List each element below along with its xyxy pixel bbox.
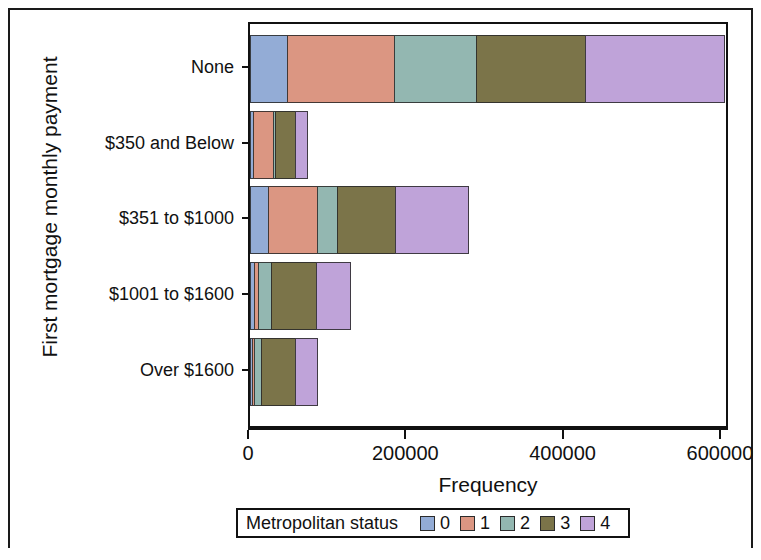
bar-segment — [395, 186, 468, 254]
y-axis-tick-label: $350 and Below — [4, 134, 234, 152]
stacked-bar-chart: First mortgage monthly payment None$350 … — [0, 0, 761, 560]
bar-segment — [317, 186, 338, 254]
chart-legend: Metropolitan status 01234 — [236, 508, 630, 538]
plot-area — [248, 22, 728, 428]
legend-label: 4 — [600, 513, 610, 534]
stacked-bar — [250, 111, 308, 179]
bar-segment — [250, 35, 288, 103]
bar-segment — [295, 338, 318, 406]
legend-item: 3 — [540, 513, 570, 534]
x-axis-tick — [562, 430, 564, 439]
legend-label: 3 — [560, 513, 570, 534]
legend-swatch — [500, 516, 515, 531]
y-axis-tick-label: Over $1600 — [4, 361, 234, 379]
legend-label: 2 — [520, 513, 530, 534]
bar-segment — [476, 35, 586, 103]
stacked-bar — [250, 262, 351, 330]
bar-segment — [253, 111, 274, 179]
y-axis-tick-label: None — [4, 58, 234, 76]
legend-item: 4 — [580, 513, 610, 534]
x-axis-tick — [719, 430, 721, 439]
bar-segment — [275, 111, 295, 179]
x-axis-line — [248, 428, 728, 430]
bar-segment — [271, 262, 317, 330]
scan-edge — [0, 548, 761, 560]
legend-title: Metropolitan status — [246, 513, 398, 534]
chart-page: First mortgage monthly payment None$350 … — [0, 0, 761, 560]
x-axis-tick — [404, 430, 406, 439]
legend-item: 2 — [500, 513, 530, 534]
x-axis-tick-label: 0 — [242, 442, 253, 465]
legend-swatch — [540, 516, 555, 531]
x-axis-tick-label: 200000 — [372, 442, 439, 465]
legend-swatch — [580, 516, 595, 531]
bar-segment — [337, 186, 396, 254]
bar-segment — [250, 186, 269, 254]
stacked-bar — [250, 35, 725, 103]
legend-label: 0 — [440, 513, 450, 534]
bar-segment — [394, 35, 477, 103]
legend-swatch — [420, 516, 435, 531]
bar-segment — [261, 338, 296, 406]
bar-segment — [295, 111, 308, 179]
legend-item: 0 — [420, 513, 450, 534]
stacked-bar — [250, 186, 469, 254]
bar-segment — [287, 35, 395, 103]
x-axis-tick-label: 400000 — [529, 442, 596, 465]
stacked-bar — [250, 338, 318, 406]
legend-item: 1 — [460, 513, 490, 534]
x-axis-tick — [247, 430, 249, 439]
x-axis-tick-label: 600000 — [687, 442, 754, 465]
y-axis-tick-label: $351 to $1000 — [4, 209, 234, 227]
y-axis-tick-label: $1001 to $1600 — [4, 285, 234, 303]
bar-segment — [258, 262, 272, 330]
x-axis-title: Frequency — [248, 473, 728, 497]
legend-items: 01234 — [420, 513, 620, 534]
bar-segment — [316, 262, 351, 330]
legend-label: 1 — [480, 513, 490, 534]
legend-swatch — [460, 516, 475, 531]
bar-segment — [268, 186, 318, 254]
bar-segment — [585, 35, 725, 103]
